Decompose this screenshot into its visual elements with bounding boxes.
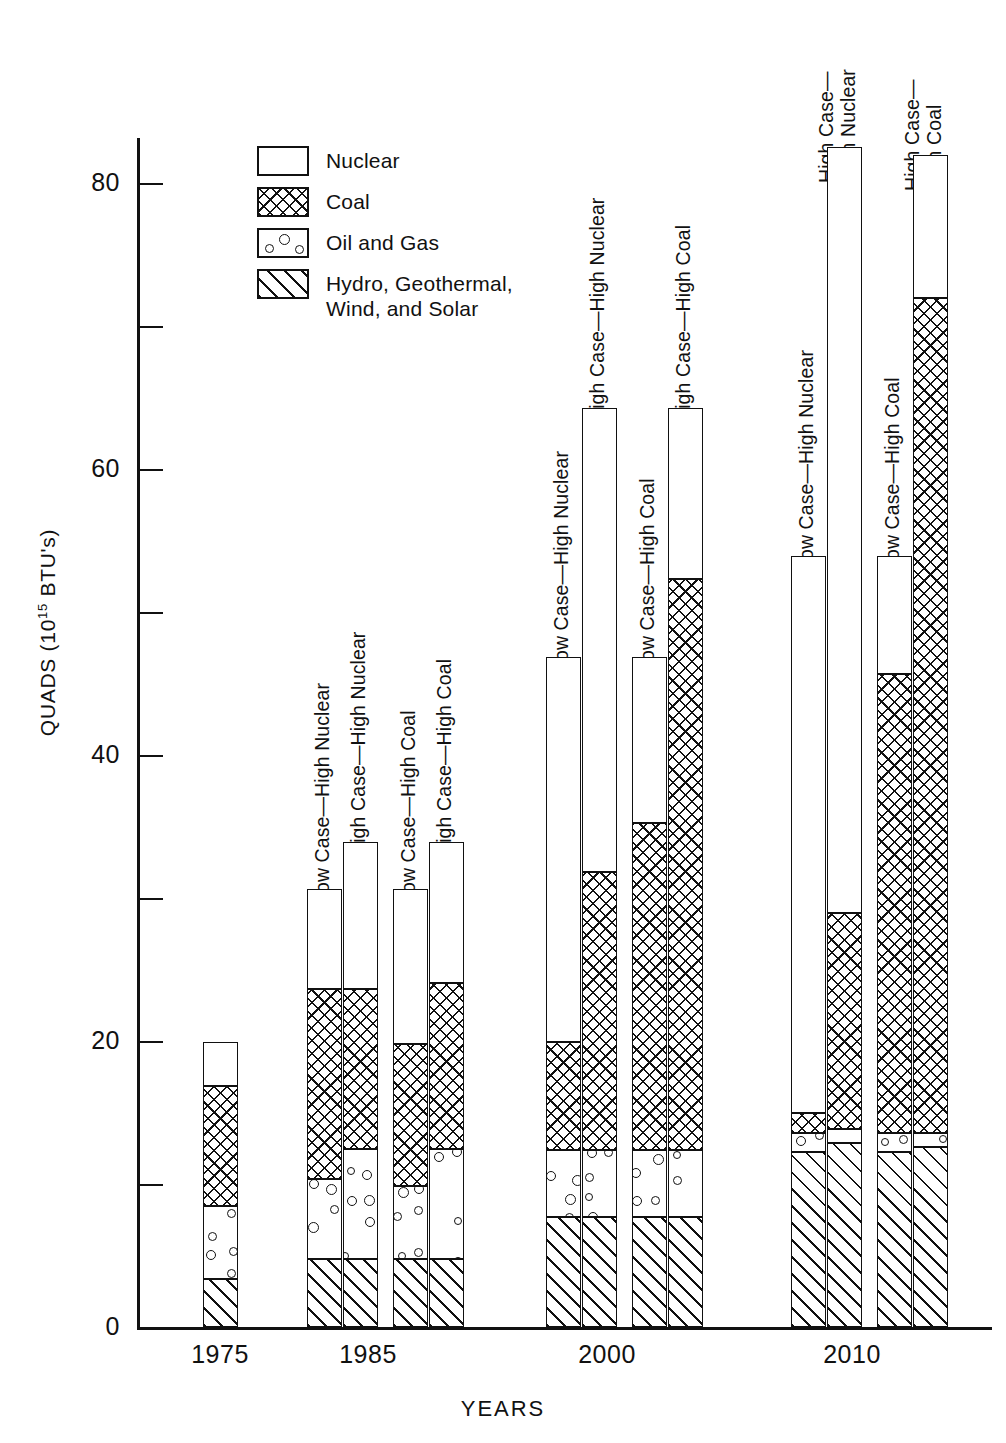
- bar-segment-coal[interactable]: [791, 1113, 826, 1133]
- bar-segment-coal[interactable]: [343, 989, 378, 1149]
- x-tick-label-2000: 2000: [547, 1340, 667, 1369]
- bar-segment-coal[interactable]: [632, 823, 667, 1150]
- bar-2000-1[interactable]: [546, 657, 581, 1327]
- y-axis-title-pre: QUADS (10: [36, 619, 59, 736]
- bar-segment-nuclear[interactable]: [791, 556, 826, 1113]
- bar-segment-nuclear[interactable]: [203, 1042, 238, 1086]
- y-tick-major: [139, 183, 163, 185]
- bar-segment-nuclear[interactable]: [429, 842, 464, 984]
- bar-segment-coal[interactable]: [827, 913, 862, 1129]
- bar-segment-hydro-geothermal-wind-solar[interactable]: [668, 1217, 703, 1327]
- bar-segment-nuclear[interactable]: [827, 147, 862, 913]
- oil-gas-dot: [452, 1150, 462, 1157]
- bar-segment-coal[interactable]: [546, 1042, 581, 1151]
- bar-segment-nuclear[interactable]: [668, 408, 703, 578]
- oil-gas-dot-pattern: [828, 1130, 861, 1142]
- bar-segment-hydro-geothermal-wind-solar[interactable]: [877, 1152, 912, 1328]
- bar-segment-hydro-geothermal-wind-solar[interactable]: [343, 1259, 378, 1328]
- bar-segment-oil-and-gas[interactable]: [393, 1186, 428, 1259]
- bar-segment-oil-and-gas[interactable]: [913, 1133, 948, 1147]
- bar-segment-hydro-geothermal-wind-solar[interactable]: [546, 1217, 581, 1327]
- oil-gas-dot: [939, 1135, 947, 1143]
- bar-label-2010-3: Low Case—High Coal: [881, 377, 904, 571]
- bar-2010-3[interactable]: [877, 556, 912, 1328]
- bar-segment-coal[interactable]: [203, 1086, 238, 1206]
- bar-segment-coal[interactable]: [429, 983, 464, 1149]
- bar-2000-3[interactable]: [632, 657, 667, 1327]
- legend-item-coal[interactable]: Coal: [257, 187, 513, 217]
- bar-segment-oil-and-gas[interactable]: [582, 1150, 617, 1217]
- y-axis-title-exponent: 15: [35, 603, 50, 619]
- bar-2010-1[interactable]: [791, 556, 826, 1328]
- bar-segment-nuclear[interactable]: [343, 842, 378, 989]
- bar-segment-oil-and-gas[interactable]: [546, 1150, 581, 1217]
- bar-1985-3[interactable]: [393, 889, 428, 1328]
- bar-segment-nuclear[interactable]: [307, 889, 342, 989]
- bar-segment-nuclear[interactable]: [393, 889, 428, 1045]
- y-tick-minor: [139, 612, 163, 614]
- bar-segment-oil-and-gas[interactable]: [668, 1150, 703, 1217]
- oil-gas-dot-pattern: [914, 1134, 947, 1146]
- bar-segment-coal[interactable]: [393, 1044, 428, 1186]
- oil-gas-dot-pattern: [394, 1187, 427, 1258]
- oil-gas-dot: [362, 1170, 372, 1180]
- oil-gas-dot: [572, 1175, 580, 1186]
- bar-segment-oil-and-gas[interactable]: [791, 1133, 826, 1152]
- bar-segment-coal[interactable]: [582, 872, 617, 1151]
- oil-gas-dot: [585, 1173, 594, 1182]
- legend-swatch-coal-icon: [257, 187, 309, 217]
- bar-1975-1[interactable]: [203, 1042, 238, 1328]
- bar-segment-coal[interactable]: [307, 989, 342, 1179]
- oil-gas-dot: [414, 1248, 423, 1257]
- bar-segment-nuclear[interactable]: [877, 556, 912, 675]
- y-tick-major: [139, 1327, 163, 1329]
- bar-segment-oil-and-gas[interactable]: [827, 1129, 862, 1143]
- legend-item-oil[interactable]: Oil and Gas: [257, 228, 513, 258]
- bar-segment-hydro-geothermal-wind-solar[interactable]: [203, 1279, 238, 1328]
- bar-segment-nuclear[interactable]: [582, 408, 617, 871]
- bar-segment-nuclear[interactable]: [632, 657, 667, 823]
- bar-segment-coal[interactable]: [913, 298, 948, 1133]
- bar-1985-1[interactable]: [307, 889, 342, 1328]
- bar-segment-oil-and-gas[interactable]: [343, 1149, 378, 1259]
- bar-segment-hydro-geothermal-wind-solar[interactable]: [307, 1259, 342, 1328]
- oil-gas-dot: [309, 1180, 319, 1189]
- bar-segment-oil-and-gas[interactable]: [307, 1179, 342, 1259]
- bar-segment-hydro-geothermal-wind-solar[interactable]: [913, 1147, 948, 1327]
- bar-2010-4[interactable]: [913, 155, 948, 1327]
- bar-segment-oil-and-gas[interactable]: [429, 1149, 464, 1259]
- bar-1985-2[interactable]: [343, 842, 378, 1328]
- oil-gas-dot-pattern: [259, 230, 307, 256]
- bar-1985-4[interactable]: [429, 842, 464, 1328]
- legend-item-nuclear[interactable]: Nuclear: [257, 146, 513, 176]
- oil-gas-dot: [633, 1168, 641, 1178]
- bar-2000-2[interactable]: [582, 408, 617, 1327]
- bar-segment-hydro-geothermal-wind-solar[interactable]: [791, 1152, 826, 1328]
- oil-gas-dot: [651, 1196, 660, 1205]
- bar-segment-hydro-geothermal-wind-solar[interactable]: [582, 1217, 617, 1327]
- oil-gas-dot: [414, 1206, 423, 1215]
- oil-gas-dot: [673, 1151, 681, 1158]
- oil-gas-dot: [453, 1257, 463, 1258]
- bar-segment-oil-and-gas[interactable]: [632, 1150, 667, 1217]
- y-tick-label: 0: [60, 1312, 120, 1341]
- legend-item-hydro[interactable]: Hydro, Geothermal,Wind, and Solar: [257, 269, 513, 321]
- x-tick-label-1975: 1975: [160, 1340, 280, 1369]
- oil-gas-dot: [653, 1154, 664, 1165]
- oil-gas-dot: [344, 1252, 349, 1258]
- bar-segment-coal[interactable]: [668, 579, 703, 1151]
- bar-segment-hydro-geothermal-wind-solar[interactable]: [632, 1217, 667, 1327]
- bar-2010-2[interactable]: [827, 147, 862, 1328]
- bar-segment-hydro-geothermal-wind-solar[interactable]: [393, 1259, 428, 1328]
- bar-2000-4[interactable]: [668, 408, 703, 1327]
- bar-segment-nuclear[interactable]: [913, 155, 948, 298]
- bar-segment-hydro-geothermal-wind-solar[interactable]: [429, 1259, 464, 1328]
- bar-segment-oil-and-gas[interactable]: [203, 1206, 238, 1279]
- bar-segment-coal[interactable]: [877, 674, 912, 1133]
- bar-segment-hydro-geothermal-wind-solar[interactable]: [827, 1143, 862, 1327]
- bar-segment-oil-and-gas[interactable]: [877, 1133, 912, 1152]
- bar-segment-nuclear[interactable]: [546, 657, 581, 1042]
- oil-gas-dot: [227, 1269, 236, 1278]
- oil-gas-dot: [881, 1138, 889, 1146]
- oil-gas-dot: [365, 1217, 375, 1227]
